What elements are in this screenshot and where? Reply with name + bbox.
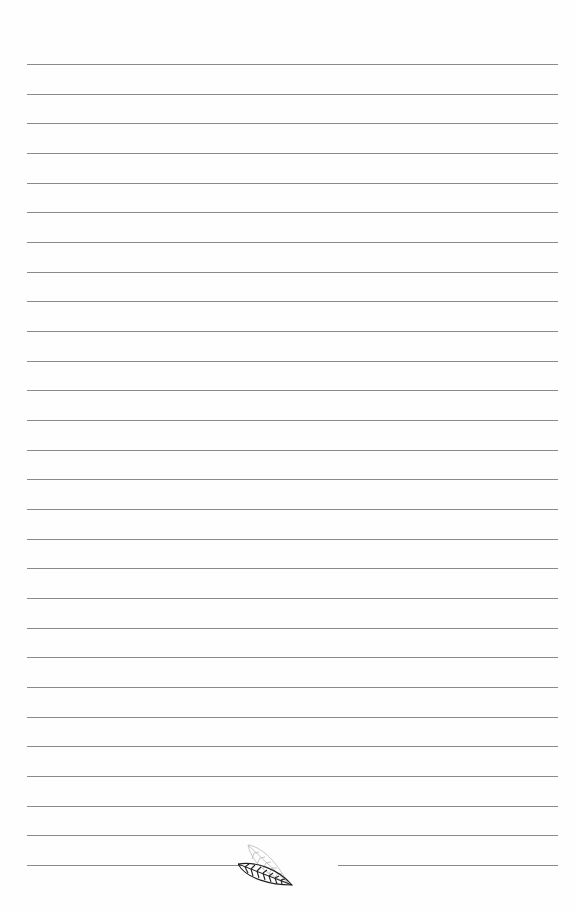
ruled-line bbox=[27, 568, 558, 569]
ruled-line bbox=[27, 361, 558, 362]
ruled-line bbox=[27, 64, 558, 65]
ruled-line bbox=[27, 301, 558, 302]
ruled-line bbox=[27, 212, 558, 213]
ruled-line bbox=[27, 420, 558, 421]
ruled-line bbox=[27, 687, 558, 688]
ruled-line bbox=[27, 509, 558, 510]
notebook-page bbox=[0, 0, 576, 913]
bottom-rule-left bbox=[27, 865, 242, 866]
ruled-line bbox=[27, 539, 558, 540]
ruled-line bbox=[27, 153, 558, 154]
ruled-line bbox=[27, 272, 558, 273]
ruled-line bbox=[27, 717, 558, 718]
ruled-line bbox=[27, 94, 558, 95]
ruled-line bbox=[27, 390, 558, 391]
ruled-line bbox=[27, 835, 558, 836]
ruled-line bbox=[27, 806, 558, 807]
ruled-line bbox=[27, 657, 558, 658]
ruled-line bbox=[27, 479, 558, 480]
front-leaf-icon bbox=[238, 863, 292, 885]
ruled-line bbox=[27, 123, 558, 124]
ruled-line bbox=[27, 776, 558, 777]
ruled-line bbox=[27, 331, 558, 332]
ruled-line bbox=[27, 450, 558, 451]
ruled-line bbox=[27, 183, 558, 184]
leaf-pair-icon bbox=[238, 843, 294, 889]
ruled-line bbox=[27, 628, 558, 629]
ruled-line bbox=[27, 598, 558, 599]
ruled-line bbox=[27, 242, 558, 243]
bottom-rule-right bbox=[338, 865, 558, 866]
ruled-line bbox=[27, 746, 558, 747]
